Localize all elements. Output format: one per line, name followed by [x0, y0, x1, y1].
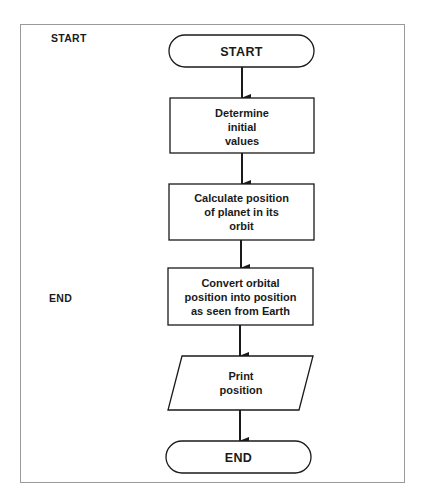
- node-init-line-3: values: [225, 135, 259, 147]
- node-print: Print position: [168, 356, 313, 410]
- node-start-label: START: [220, 45, 263, 59]
- node-init: Determine initial values: [170, 98, 314, 153]
- node-init-line-1: Determine: [215, 107, 269, 119]
- node-init-line-2: initial: [228, 121, 257, 133]
- node-end: END: [166, 441, 311, 473]
- node-convert-line-2: position into position: [185, 291, 297, 303]
- node-print-line-2: position: [220, 384, 263, 396]
- node-calc-line-1: Calculate position: [194, 192, 289, 204]
- node-calc: Calculate position of planet in its orbi…: [169, 184, 314, 240]
- node-calc-line-3: orbit: [229, 220, 254, 232]
- node-convert-line-3: as seen from Earth: [191, 305, 290, 317]
- node-convert-line-1: Convert orbital: [201, 277, 279, 289]
- node-start: START: [169, 35, 314, 67]
- node-calc-line-2: of planet in its: [204, 206, 279, 218]
- flowchart: START Determine initial values Calculate…: [0, 0, 425, 504]
- node-end-label: END: [225, 451, 253, 465]
- node-convert: Convert orbital position into position a…: [168, 268, 313, 325]
- node-print-line-1: Print: [228, 370, 253, 382]
